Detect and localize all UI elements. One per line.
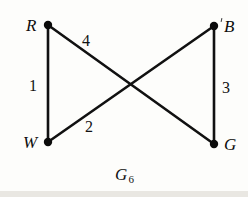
vertex-dot-R <box>44 21 52 29</box>
vertex-dot-B <box>210 22 218 30</box>
figure-caption-subscript: 6 <box>128 173 134 185</box>
figure-caption-symbol: G <box>115 165 127 184</box>
edge-weight-R-G: 4 <box>82 33 90 49</box>
graph-edges <box>48 25 214 144</box>
figure-caption: G6 <box>0 166 248 183</box>
vertex-label-G: G <box>224 136 236 153</box>
edge-weight-W-B: 2 <box>85 119 93 135</box>
vertex-label-R: R <box>26 17 36 34</box>
edge-weight-R-W: 1 <box>29 78 37 94</box>
vertex-label-W: W <box>23 134 37 151</box>
vertex-dot-W <box>44 138 52 146</box>
edge-weight-B-G: 3 <box>222 80 230 96</box>
vertex-label-B: B <box>224 18 234 35</box>
figure-container: R B W G 1 4 2 3 G6 <box>0 0 248 197</box>
vertex-dot-G <box>210 140 218 148</box>
